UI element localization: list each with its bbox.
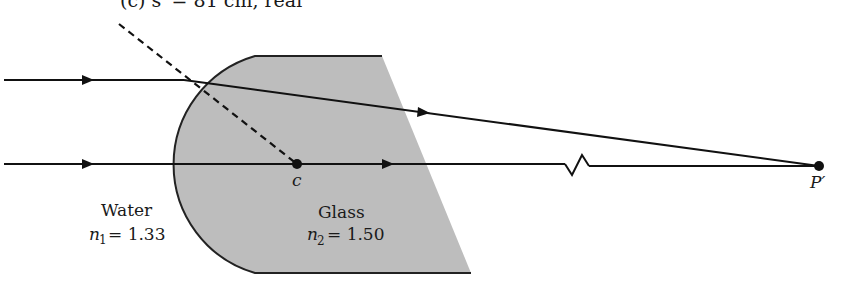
arrow-icon bbox=[82, 159, 94, 169]
water-label: Water bbox=[101, 200, 153, 220]
glass-label: Glass bbox=[318, 202, 365, 222]
center-label: c bbox=[292, 170, 302, 190]
glass-index-subscript: 2 bbox=[317, 234, 325, 248]
water-index-subscript: 1 bbox=[99, 233, 107, 247]
glass-index-value: = 1.50 bbox=[327, 224, 385, 244]
image-point-label: P′ bbox=[809, 172, 825, 192]
arrow-icon bbox=[417, 107, 430, 117]
water-index: n 1 = 1.33 bbox=[89, 224, 166, 247]
arrow-icon bbox=[82, 75, 94, 85]
refraction-diagram: (c) s′ = 81 cm, real c P′ Water n 1 bbox=[0, 0, 841, 283]
water-index-value: = 1.33 bbox=[108, 224, 166, 244]
axis-break-symbol bbox=[565, 155, 589, 175]
figure-caption: (c) s′ = 81 cm, real bbox=[120, 0, 302, 11]
image-point bbox=[814, 161, 824, 171]
center-point bbox=[292, 159, 302, 169]
